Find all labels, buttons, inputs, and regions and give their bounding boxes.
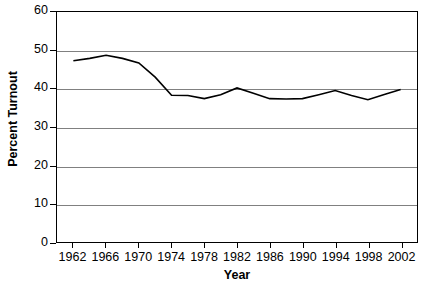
x-axis-tick-label: 2002 [379,250,425,265]
y-axis-tick-label: 50 [2,43,48,56]
x-axis-tick-mark [72,243,73,248]
y-axis-tick-label: 0 [2,236,48,249]
x-axis-title: Year [56,268,418,282]
x-axis-tick-mark [171,243,172,248]
x-axis-tick-mark [105,243,106,248]
x-axis-tick-mark [369,243,370,248]
y-axis-tick-label: 10 [2,197,48,210]
series-layer [57,12,417,242]
y-axis-title: Percent Turnout [6,59,20,179]
plot-area [56,11,418,243]
x-axis-tick-mark [402,243,403,248]
line-chart: 0102030405060 19621966197019741978198219… [0,0,436,293]
x-axis-tick-mark [303,243,304,248]
x-axis-tick-mark [237,243,238,248]
x-axis-tick-mark [270,243,271,248]
series-line-percent-turnout [73,55,400,99]
x-axis-tick-mark [336,243,337,248]
y-axis-tick-label: 60 [2,4,48,17]
x-axis-tick-mark [204,243,205,248]
x-axis-tick-mark [138,243,139,248]
y-axis-tick-mark [50,243,56,244]
